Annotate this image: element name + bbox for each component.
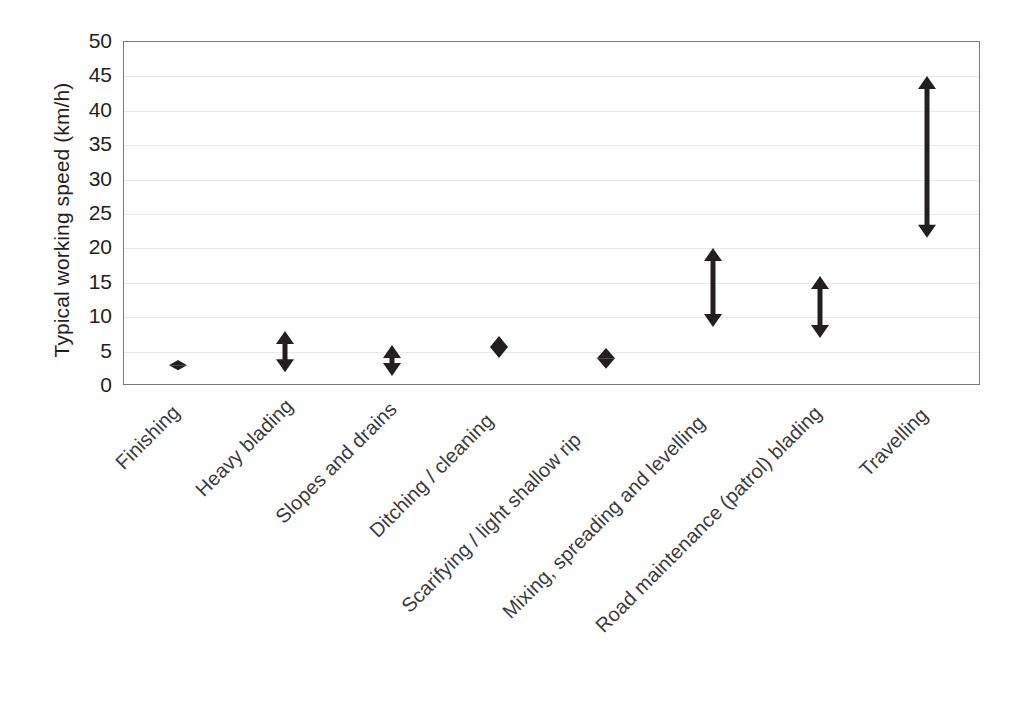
x-axis-label: Road maintenance (patrol) blading	[591, 402, 827, 638]
x-axis-label: Scarifying / light shallow rip	[397, 428, 586, 617]
chart-container: Typical working speed (km/h) 50454035302…	[0, 0, 1020, 710]
x-axis-label: Travelling	[855, 403, 933, 481]
x-axis-label: Mixing, spreading and levelling	[498, 412, 710, 624]
x-axis-label: Heavy blading	[191, 395, 298, 502]
x-axis-category-labels: FinishingHeavy bladingSlopes and drainsD…	[0, 0, 1020, 710]
x-axis-label: Finishing	[111, 401, 185, 475]
